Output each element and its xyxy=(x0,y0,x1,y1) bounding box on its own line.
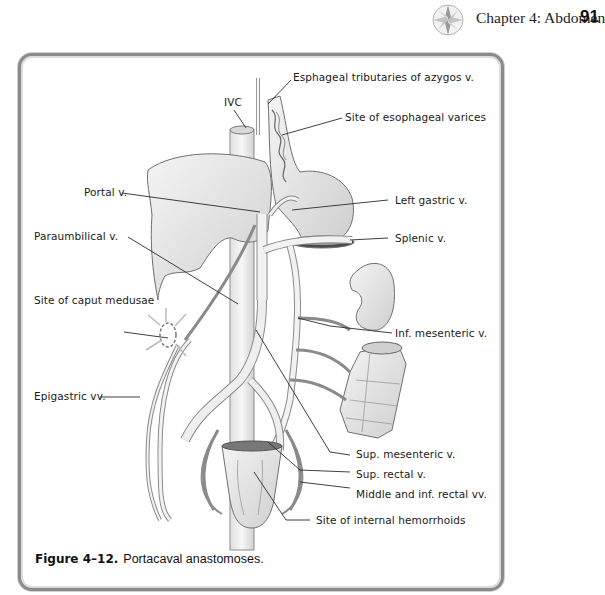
label-sup-mesenteric: Sup. mesenteric v. xyxy=(356,448,455,460)
label-esophageal-tributaries: Esphageal tributaries of azygos v. xyxy=(293,71,474,83)
descending-colon xyxy=(340,342,406,438)
figure-number: Figure 4–12. xyxy=(35,552,118,566)
label-epigastric: Epigastric vv. xyxy=(34,390,106,402)
figure-caption-text: Portacaval anastomoses. xyxy=(123,552,263,566)
figure-caption: Figure 4–12.Portacaval anastomoses. xyxy=(35,552,264,566)
label-caput-medusae: Site of caput medusae xyxy=(34,294,154,306)
label-mid-inf-rectal: Middle and inf. rectal vv. xyxy=(356,488,487,500)
label-sup-rectal: Sup. rectal v. xyxy=(356,468,426,480)
label-esophageal-varices: Site of esophageal varices xyxy=(345,111,486,123)
label-splenic: Splenic v. xyxy=(395,232,446,244)
label-ivc: IVC xyxy=(224,96,242,108)
label-portal-v: Portal v. xyxy=(84,186,127,198)
label-internal-hemorrhoids: Site of internal hemorrhoids xyxy=(316,514,466,526)
label-left-gastric: Left gastric v. xyxy=(395,194,467,206)
caput-medusae xyxy=(146,308,186,356)
label-paraumbilical: Paraumbilical v. xyxy=(34,230,118,242)
label-inf-mesenteric: Inf. mesenteric v. xyxy=(395,327,487,339)
kidney xyxy=(350,263,394,330)
